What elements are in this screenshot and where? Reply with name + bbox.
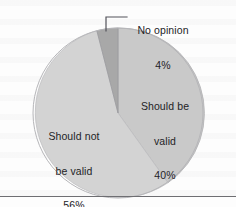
slice-label-should-be-valid-value: 40% bbox=[128, 170, 202, 182]
figure-bottom-rule bbox=[0, 196, 236, 197]
slice-label-should-not-be-valid-line1: Should not bbox=[30, 131, 118, 143]
slice-label-should-not-be-valid-value: 56% bbox=[30, 200, 118, 207]
slice-label-should-not-be-valid: Should not be valid 56% bbox=[30, 108, 118, 207]
slice-label-should-be-valid-line2: valid bbox=[128, 136, 202, 148]
slice-label-no-opinion-name: No opinion bbox=[118, 25, 208, 37]
slice-label-no-opinion-value: 4% bbox=[118, 60, 208, 72]
pie-chart-figure: No opinion 4% Should be valid 40% Should… bbox=[0, 0, 236, 207]
slice-label-should-not-be-valid-line2: be valid bbox=[30, 166, 118, 178]
slice-label-should-be-valid: Should be valid 40% bbox=[128, 78, 202, 205]
slice-label-should-be-valid-line1: Should be bbox=[128, 101, 202, 113]
